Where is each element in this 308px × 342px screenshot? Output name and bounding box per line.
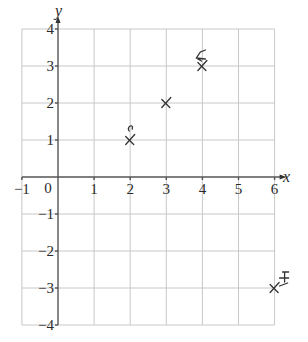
x-tick-label: 3: [163, 181, 171, 197]
x-tick-label: 2: [126, 181, 134, 197]
y-tick-label: 2: [47, 95, 55, 111]
handwritten-annotation-icon: [280, 272, 289, 286]
y-tick-label: 1: [47, 132, 55, 148]
x-tick-label: −1: [14, 181, 30, 197]
y-axis-label: y: [53, 2, 63, 20]
y-tick-label: 3: [47, 58, 55, 74]
y-tick-label: −3: [38, 280, 54, 296]
x-tick-label: 0: [44, 180, 52, 196]
x-tick-labels: −10123456: [14, 180, 279, 197]
x-axis-label: x: [282, 168, 290, 185]
x-tick-label: 4: [199, 181, 207, 197]
coordinate-plot: −10123456 −4−3−2−11234 x y: [0, 0, 308, 342]
x-tick-label: 1: [90, 181, 98, 197]
axes: [22, 16, 287, 325]
x-tick-label: 6: [271, 181, 279, 197]
x-tick-label: 5: [235, 181, 243, 197]
y-tick-label: −4: [38, 317, 54, 333]
y-tick-label: −2: [38, 243, 54, 259]
y-tick-label: −1: [38, 206, 54, 222]
y-tick-label: 4: [47, 21, 55, 37]
handwritten-annotation-icon: [196, 50, 205, 61]
